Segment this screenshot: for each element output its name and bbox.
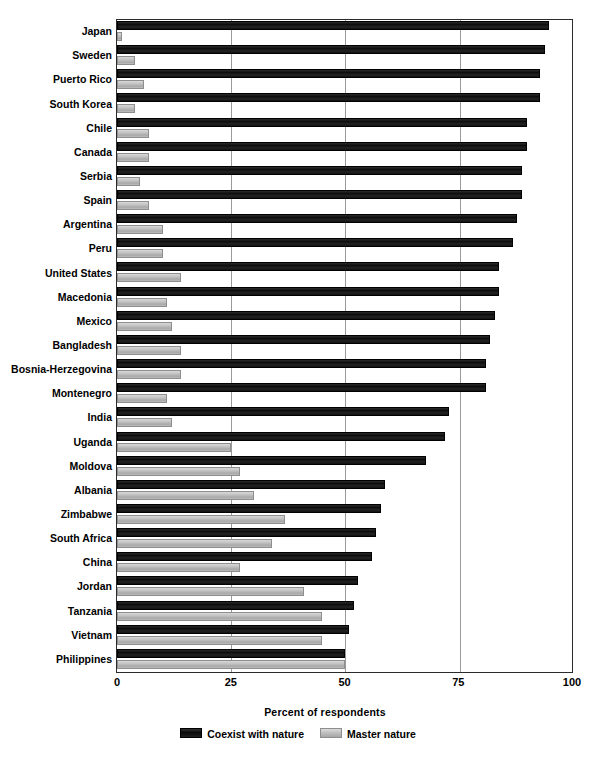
bar-rows (117, 20, 572, 672)
bar-coexist-with-nature (117, 166, 522, 175)
table-row (117, 431, 572, 455)
table-row (117, 213, 572, 237)
table-row (117, 92, 572, 116)
category-label: Jordan (0, 581, 112, 592)
x-axis-ticks: 0255075100 (0, 676, 596, 692)
category-label: Peru (0, 243, 112, 254)
table-row (117, 237, 572, 261)
bar-chart: JapanSwedenPuerto RicoSouth KoreaChileCa… (0, 0, 596, 758)
table-row (117, 455, 572, 479)
bar-master-nature (117, 201, 149, 210)
table-row (117, 648, 572, 672)
x-tick-label-75: 75 (452, 676, 464, 688)
table-row (117, 141, 572, 165)
chart-legend: Coexist with natureMaster nature (0, 726, 596, 740)
table-row (117, 479, 572, 503)
dark-swatch-icon (180, 728, 202, 738)
bar-coexist-with-nature (117, 576, 358, 585)
category-label: South Africa (0, 533, 112, 544)
legend-label: Master nature (347, 728, 416, 740)
bar-coexist-with-nature (117, 69, 540, 78)
bar-coexist-with-nature (117, 383, 486, 392)
category-label: Argentina (0, 219, 112, 230)
category-label: Japan (0, 26, 112, 37)
bar-coexist-with-nature (117, 456, 426, 465)
bar-coexist-with-nature (117, 601, 354, 610)
bar-master-nature (117, 322, 172, 331)
bar-master-nature (117, 129, 149, 138)
category-label: Montenegro (0, 388, 112, 399)
table-row (117, 261, 572, 285)
table-row (117, 600, 572, 624)
bar-master-nature (117, 660, 345, 669)
bar-coexist-with-nature (117, 432, 445, 441)
bar-coexist-with-nature (117, 93, 540, 102)
bar-master-nature (117, 587, 304, 596)
bar-master-nature (117, 346, 181, 355)
x-tick-label-100: 100 (563, 676, 581, 688)
bar-master-nature (117, 32, 122, 41)
table-row (117, 575, 572, 599)
table-row (117, 624, 572, 648)
bar-coexist-with-nature (117, 142, 527, 151)
bar-master-nature (117, 56, 135, 65)
bar-coexist-with-nature (117, 625, 349, 634)
category-label: Canada (0, 147, 112, 158)
bar-master-nature (117, 443, 231, 452)
category-label: Uganda (0, 437, 112, 448)
bar-master-nature (117, 370, 181, 379)
bar-master-nature (117, 539, 272, 548)
bar-coexist-with-nature (117, 21, 549, 30)
bar-master-nature (117, 467, 240, 476)
bar-master-nature (117, 177, 140, 186)
table-row (117, 189, 572, 213)
bar-master-nature (117, 249, 163, 258)
category-label: China (0, 557, 112, 568)
category-label: Puerto Rico (0, 74, 112, 85)
x-tick-label-0: 0 (114, 676, 120, 688)
category-label: Spain (0, 195, 112, 206)
legend-item-coexist-with-nature[interactable]: Coexist with nature (180, 727, 304, 740)
table-row (117, 382, 572, 406)
bar-coexist-with-nature (117, 190, 522, 199)
bar-master-nature (117, 418, 172, 427)
table-row (117, 406, 572, 430)
x-tick-label-50: 50 (338, 676, 350, 688)
table-row (117, 503, 572, 527)
category-label: Serbia (0, 171, 112, 182)
bar-coexist-with-nature (117, 311, 495, 320)
x-axis-title: Percent of respondents (0, 706, 596, 718)
bar-master-nature (117, 104, 135, 113)
category-label: Zimbabwe (0, 509, 112, 520)
bar-coexist-with-nature (117, 552, 372, 561)
category-label: Moldova (0, 461, 112, 472)
category-label: Chile (0, 123, 112, 134)
table-row (117, 165, 572, 189)
bar-coexist-with-nature (117, 45, 545, 54)
table-row (117, 310, 572, 334)
category-label: Tanzania (0, 606, 112, 617)
category-label: Vietnam (0, 630, 112, 641)
category-axis: JapanSwedenPuerto RicoSouth KoreaChileCa… (0, 20, 112, 672)
bar-coexist-with-nature (117, 649, 345, 658)
bar-master-nature (117, 491, 254, 500)
table-row (117, 68, 572, 92)
bar-master-nature (117, 636, 322, 645)
bar-coexist-with-nature (117, 214, 517, 223)
bar-coexist-with-nature (117, 262, 499, 271)
legend-label: Coexist with nature (207, 728, 304, 740)
category-label: United States (0, 268, 112, 279)
bar-master-nature (117, 153, 149, 162)
category-label: Bosnia-Herzegovina (0, 364, 112, 375)
table-row (117, 551, 572, 575)
bar-coexist-with-nature (117, 118, 527, 127)
bar-master-nature (117, 394, 167, 403)
legend-item-master-nature[interactable]: Master nature (320, 727, 416, 740)
bar-coexist-with-nature (117, 335, 490, 344)
table-row (117, 44, 572, 68)
bar-master-nature (117, 515, 285, 524)
bar-coexist-with-nature (117, 528, 376, 537)
x-tick-label-25: 25 (225, 676, 237, 688)
bar-coexist-with-nature (117, 287, 499, 296)
bar-master-nature (117, 298, 167, 307)
